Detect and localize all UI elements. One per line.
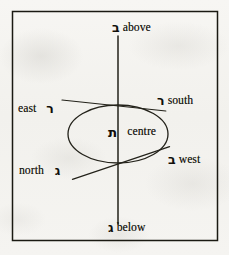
hebrew-letter-resh-south: ר <box>157 95 165 108</box>
label-north-text: north <box>19 165 44 177</box>
figure-root: ב above ג below east ר ר south ב west no… <box>0 0 229 255</box>
label-north: north ג <box>19 164 60 177</box>
label-west-text: west <box>179 154 200 166</box>
label-below: ג below <box>108 221 145 234</box>
label-centre: ת centre <box>108 125 156 139</box>
label-above: ב above <box>112 21 151 34</box>
label-below-text: below <box>117 222 146 234</box>
label-south: ר south <box>157 94 193 107</box>
hebrew-letter-gimel-below: ג <box>108 222 114 235</box>
hebrew-letter-bet-above: ב <box>112 22 120 35</box>
label-south-text: south <box>168 95 193 107</box>
hebrew-letter-bet-west: ב <box>168 154 176 167</box>
hebrew-letter-tav-centre: ת <box>108 126 117 140</box>
hebrew-letter-gimel-north: ג <box>55 165 61 178</box>
label-east-text: east <box>18 103 36 115</box>
label-above-text: above <box>123 22 151 34</box>
hebrew-letter-resh-east: ר <box>46 103 54 116</box>
label-centre-text: centre <box>127 126 156 138</box>
label-east: east ר <box>18 102 54 115</box>
label-west: ב west <box>168 153 200 166</box>
